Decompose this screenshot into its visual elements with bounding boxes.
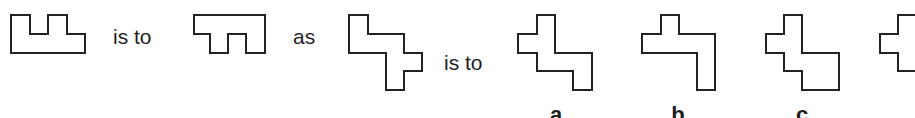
connector-as: as xyxy=(293,26,315,47)
connector-is-to-2: is to xyxy=(444,52,483,73)
connector-is-to-1: is to xyxy=(113,26,152,47)
option-c-label[interactable]: c xyxy=(796,104,808,118)
option-d-shape-partial[interactable] xyxy=(880,15,915,71)
option-c-shape[interactable] xyxy=(766,15,839,90)
shape-1-castle-notched xyxy=(11,15,85,53)
shape-2-inverted-castle xyxy=(194,15,265,53)
option-b-label[interactable]: b xyxy=(671,104,684,118)
option-a-shape[interactable] xyxy=(518,15,592,90)
shape-3-question-figure xyxy=(349,15,422,90)
option-b-shape[interactable] xyxy=(642,15,715,90)
option-a-label[interactable]: a xyxy=(550,104,562,118)
analogy-puzzle: is to as is to a b c xyxy=(0,0,915,118)
